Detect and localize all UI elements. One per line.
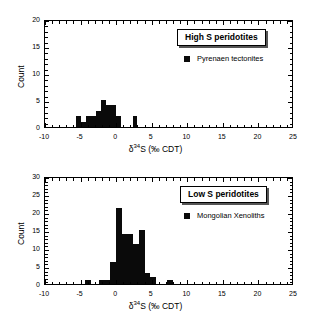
x-axis-minor-tick	[66, 21, 67, 24]
y-axis-major-tick	[288, 196, 292, 197]
y-axis-major-tick	[45, 48, 49, 49]
y-axis-major-tick	[288, 268, 292, 269]
x-axis-minor-tick	[180, 21, 181, 24]
x-axis-minor-tick	[145, 21, 146, 24]
x-axis-minor-tick	[173, 125, 174, 128]
x-axis-major-tick	[81, 21, 82, 25]
x-axis-major-tick	[152, 280, 153, 284]
y-axis-minor-tick	[45, 264, 48, 265]
panel-low-s-peridotites: Count δ34S (‰ CDT) Low S peridotites Mon…	[0, 157, 311, 312]
x-axis-minor-tick	[59, 21, 60, 24]
y-axis-tick-label: 0	[20, 280, 40, 289]
x-axis-minor-tick	[202, 125, 203, 128]
x-axis-minor-tick	[59, 178, 60, 181]
y-axis-minor-tick	[45, 43, 48, 44]
x-axis-minor-tick	[266, 178, 267, 181]
x-axis-major-tick	[258, 280, 259, 284]
x-axis-minor-tick	[102, 282, 103, 285]
x-axis-minor-tick	[73, 125, 74, 128]
x-axis-minor-tick	[244, 178, 245, 181]
x-axis-minor-tick	[273, 21, 274, 24]
x-axis-minor-tick	[109, 125, 110, 128]
figure-histograms: Count δ34S (‰ CDT) High S peridotites Py…	[0, 0, 311, 312]
y-axis-tick-label: 30	[20, 172, 40, 181]
y-axis-minor-tick	[45, 243, 48, 244]
y-axis-minor-tick	[290, 97, 293, 98]
x-axis-minor-tick	[109, 21, 110, 24]
x-axis-minor-tick	[173, 21, 174, 24]
x-axis-minor-tick	[88, 282, 89, 285]
y-axis-minor-tick	[290, 113, 293, 114]
y-axis-major-tick	[45, 196, 49, 197]
y-axis-major-tick	[45, 214, 49, 215]
y-axis-minor-tick	[45, 53, 48, 54]
x-axis-minor-tick	[166, 282, 167, 285]
y-axis-minor-tick	[45, 64, 48, 65]
y-axis-minor-tick	[290, 91, 293, 92]
x-axis-minor-tick	[137, 282, 138, 285]
y-axis-minor-tick	[290, 59, 293, 60]
x-axis-minor-tick	[194, 125, 195, 128]
y-axis-minor-tick	[290, 236, 293, 237]
y-axis-tick-label: 25	[20, 190, 40, 199]
legend-label-bottom: Mongolian Xenoliths	[197, 211, 265, 220]
x-axis-tick-label: -5	[67, 132, 93, 141]
x-axis-tick-label: 0	[102, 132, 128, 141]
x-axis-major-tick	[116, 178, 117, 182]
x-axis-minor-tick	[230, 21, 231, 24]
y-axis-minor-tick	[45, 279, 48, 280]
y-axis-tick-label: 5	[20, 96, 40, 105]
y-axis-minor-tick	[45, 246, 48, 247]
y-axis-minor-tick	[290, 207, 293, 208]
y-axis-minor-tick	[290, 37, 293, 38]
x-axis-minor-tick	[95, 125, 96, 128]
y-axis-minor-tick	[45, 185, 48, 186]
y-axis-minor-tick	[290, 200, 293, 201]
y-axis-major-tick	[45, 102, 49, 103]
y-axis-minor-tick	[45, 257, 48, 258]
x-axis-minor-tick	[194, 178, 195, 181]
y-axis-minor-tick	[290, 257, 293, 258]
x-axis-minor-tick	[95, 178, 96, 181]
y-axis-major-tick	[288, 75, 292, 76]
y-axis-minor-tick	[45, 37, 48, 38]
y-axis-tick-label: 5	[20, 262, 40, 271]
y-axis-minor-tick	[290, 279, 293, 280]
chart-title-box-top: High S peridotites	[177, 29, 266, 46]
x-axis-minor-tick	[280, 21, 281, 24]
x-axis-minor-tick	[123, 21, 124, 24]
x-axis-tick-label: 25	[280, 289, 306, 298]
x-axis-minor-tick	[95, 21, 96, 24]
x-axis-minor-tick	[237, 125, 238, 128]
x-axis-minor-tick	[52, 21, 53, 24]
y-axis-minor-tick	[45, 221, 48, 222]
x-axis-minor-tick	[251, 282, 252, 285]
x-axis-tick-label: 10	[173, 289, 199, 298]
x-axis-major-tick	[223, 123, 224, 127]
x-axis-tick-label: 15	[209, 132, 235, 141]
x-axis-minor-tick	[95, 282, 96, 285]
y-axis-minor-tick	[290, 264, 293, 265]
y-axis-minor-tick	[45, 118, 48, 119]
y-axis-minor-tick	[45, 236, 48, 237]
y-axis-major-tick	[45, 268, 49, 269]
x-axis-minor-tick	[109, 178, 110, 181]
x-axis-minor-tick	[159, 282, 160, 285]
x-axis-minor-tick	[209, 282, 210, 285]
y-axis-minor-tick	[290, 53, 293, 54]
x-axis-minor-tick	[73, 21, 74, 24]
y-axis-minor-tick	[290, 239, 293, 240]
y-axis-minor-tick	[45, 107, 48, 108]
x-axis-minor-tick	[166, 125, 167, 128]
x-axis-minor-tick	[130, 21, 131, 24]
y-axis-minor-tick	[45, 275, 48, 276]
y-axis-minor-tick	[290, 210, 293, 211]
x-axis-minor-tick	[137, 178, 138, 181]
x-axis-minor-tick	[52, 125, 53, 128]
x-axis-minor-tick	[159, 125, 160, 128]
x-axis-tick-label: 0	[102, 289, 128, 298]
x-axis-major-tick	[187, 178, 188, 182]
y-axis-minor-tick	[45, 210, 48, 211]
y-axis-major-tick	[288, 102, 292, 103]
x-axis-minor-tick	[209, 178, 210, 181]
